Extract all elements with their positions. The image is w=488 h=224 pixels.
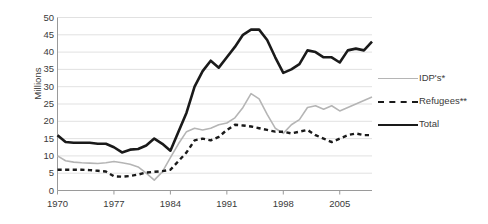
y-tick-label: 10 <box>26 151 54 161</box>
y-tick-label: 50 <box>26 13 54 23</box>
x-tick-marks <box>58 191 340 195</box>
legend-item-idps: IDP's* <box>378 66 486 89</box>
x-tick-label: 1998 <box>263 198 303 209</box>
legend-swatch-total <box>378 118 418 130</box>
legend-item-refugees: Refugees** <box>378 89 486 112</box>
gridlines <box>58 18 373 191</box>
y-tick-label: 35 <box>26 64 54 74</box>
legend-swatch-refugees <box>378 95 418 107</box>
x-tick-label: 1991 <box>207 198 247 209</box>
y-tick-label: 40 <box>26 47 54 57</box>
line-chart: Millions 05101520253035404550 1970197719… <box>0 0 488 224</box>
legend-label-idps: IDP's* <box>418 72 445 83</box>
y-tick-label: 5 <box>26 168 54 178</box>
y-tick-label: 0 <box>26 186 54 196</box>
x-tick-label: 1977 <box>94 198 134 209</box>
legend-label-total: Total <box>418 118 439 129</box>
y-tick-label: 45 <box>26 30 54 40</box>
x-tick-label: 1970 <box>38 198 78 209</box>
series-line <box>58 30 373 153</box>
y-axis-ticks: 05101520253035404550 <box>22 0 54 224</box>
x-tick-label: 2005 <box>320 198 360 209</box>
legend: IDP's* Refugees** Total <box>378 66 486 135</box>
legend-item-total: Total <box>378 112 486 135</box>
legend-swatch-idps <box>378 72 418 84</box>
y-tick-label: 25 <box>26 99 54 109</box>
series-line <box>58 94 373 180</box>
series-line <box>58 125 373 177</box>
y-tick-label: 30 <box>26 82 54 92</box>
y-tick-label: 15 <box>26 134 54 144</box>
legend-label-refugees: Refugees** <box>418 95 467 106</box>
x-tick-label: 1984 <box>150 198 190 209</box>
y-tick-label: 20 <box>26 116 54 126</box>
